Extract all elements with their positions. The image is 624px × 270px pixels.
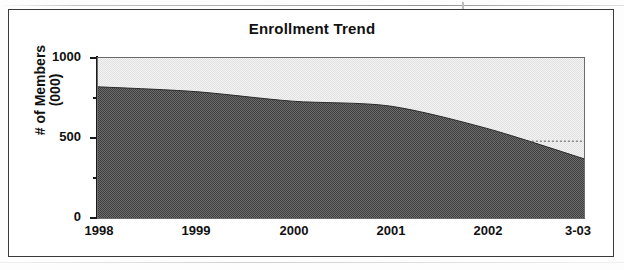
scanner-artifact-line-top: [0, 5, 624, 6]
x-tick-label-2000: 2000: [259, 223, 329, 238]
area-chart-svg: [98, 58, 584, 218]
x-tick-label-1998: 1998: [64, 223, 134, 238]
chart-frame: Enrollment Trend # of Members (000) 1000…: [8, 9, 614, 257]
x-tick-label-3-03: 3-03: [543, 223, 613, 238]
y-tick-label-1000: 1000: [21, 49, 81, 64]
chart-title: Enrollment Trend: [9, 20, 615, 37]
y-tick-label-0: 0: [21, 209, 81, 224]
plot-area: [97, 57, 585, 219]
y-axis-title: # of Members (000): [30, 5, 66, 175]
scanner-artifact-line-bottom: [0, 262, 624, 263]
y-tick-label-500: 500: [21, 129, 81, 144]
plot-inner: [98, 58, 584, 218]
x-tick-label-2001: 2001: [356, 223, 426, 238]
x-tick-label-2002: 2002: [453, 223, 523, 238]
scanner-artifact-tick: [462, 2, 464, 9]
x-tick-label-1999: 1999: [161, 223, 231, 238]
